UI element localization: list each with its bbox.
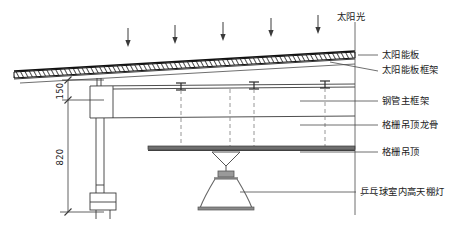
sun-arrow-5 (315, 15, 320, 34)
annotation-label-solar-panel-frame: 太阳能板框架 (382, 64, 438, 75)
lamp-rim (198, 207, 254, 210)
frame-riser-posts (97, 78, 101, 86)
sun-arrow-2 (172, 25, 177, 44)
frame-secondary-chord (113, 87, 355, 89)
lamp-hanger-triangle (212, 152, 240, 166)
dimension-lines (60, 77, 104, 216)
sunlight-label: 太阳光 (337, 11, 365, 22)
grille-ceiling-band (148, 146, 355, 149)
lamp-reflector-dome (200, 179, 252, 208)
leader-lines (240, 22, 378, 215)
annotation-label-steel-main-frame: 钢管主框架 (382, 95, 429, 106)
solar-panel-hatched-band (14, 52, 355, 78)
support-column (90, 118, 116, 219)
technical-diagram-canvas: 太阳光 太阳能板 太阳能板框架 钢管主框架 格栅吊顶龙骨 格栅吊顶 乒乓球室内高… (0, 0, 471, 233)
dimension-value-820: 820 (55, 147, 65, 167)
connector-cap-1 (176, 83, 186, 90)
solar-panel-assembly (14, 51, 355, 83)
annotation-label-grille-keel: 格栅吊顶龙骨 (382, 119, 438, 130)
grille-ceiling (148, 146, 355, 150)
high-bay-lamp (198, 152, 254, 210)
steel-main-frame (90, 78, 355, 118)
column-footing (90, 193, 116, 219)
leader-solar-panel-frame (330, 62, 378, 71)
sun-arrow-4 (268, 18, 273, 37)
dimension-value-150: 150 (55, 81, 65, 101)
frame-bottom-chord (90, 116, 355, 118)
frame-top-chord (90, 84, 355, 86)
sunlight-arrows (125, 15, 320, 47)
annotation-label-solar-panel: 太阳能板 (382, 49, 420, 60)
annotation-label-grille-ceiling: 格栅吊顶 (382, 146, 420, 157)
diagram-vector-layer (0, 0, 471, 233)
sun-arrow-1 (125, 28, 130, 47)
annotation-label-high-bay-lamp: 乒乓球室内高天棚灯 (360, 186, 445, 197)
lamp-body (214, 171, 238, 178)
sun-arrow-3 (220, 22, 225, 41)
